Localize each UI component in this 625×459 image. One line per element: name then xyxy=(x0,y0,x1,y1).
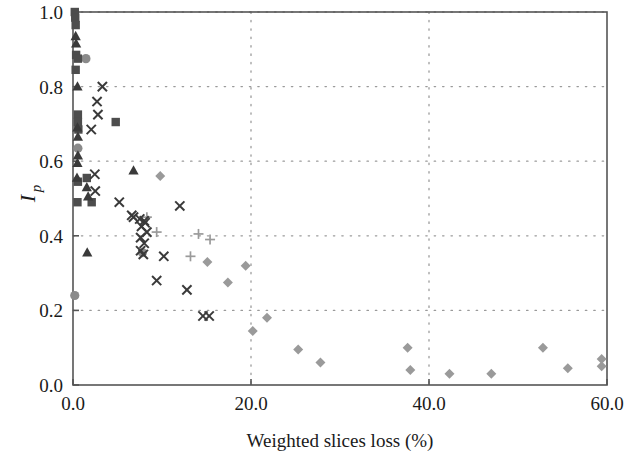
data-point-x xyxy=(91,186,100,195)
data-point-diamond xyxy=(262,313,272,323)
data-point-diamond xyxy=(315,358,325,368)
y-axis-title-base: I xyxy=(15,193,40,203)
data-point-x xyxy=(182,285,191,294)
data-point-triangle xyxy=(71,31,81,40)
data-point-x xyxy=(92,97,101,106)
series-triangle xyxy=(71,31,139,257)
data-point-plus xyxy=(193,229,203,239)
data-point-diamond xyxy=(405,365,415,375)
data-point-circle xyxy=(81,54,90,63)
data-point-plus xyxy=(205,235,215,245)
data-point-x xyxy=(90,170,99,179)
data-point-triangle xyxy=(128,165,138,174)
data-point-square xyxy=(71,13,79,21)
data-point-square xyxy=(74,110,82,118)
data-point-diamond xyxy=(202,257,212,267)
series-diamond xyxy=(155,171,606,379)
series-plus xyxy=(142,212,215,261)
data-points xyxy=(70,8,606,379)
data-point-x xyxy=(115,198,124,207)
y-axis-title-subscript: p xyxy=(28,184,44,193)
x-tick-label: 20.0 xyxy=(234,393,267,414)
data-point-square xyxy=(73,198,81,206)
chart-figure: 0.00.20.40.60.81.00.020.040.060.0Weighte… xyxy=(0,0,625,459)
data-point-diamond xyxy=(597,361,607,371)
data-point-diamond xyxy=(293,345,303,355)
data-point-diamond xyxy=(223,277,233,287)
data-point-circle xyxy=(70,291,79,300)
x-tick-label: 0.0 xyxy=(61,393,85,414)
data-point-diamond xyxy=(241,261,251,271)
x-axis-title: Weighted slices loss (%) xyxy=(247,430,434,452)
data-point-square xyxy=(112,118,120,126)
y-axis-title: Ip xyxy=(15,184,44,203)
data-point-plus xyxy=(185,251,195,261)
data-point-diamond xyxy=(403,343,413,353)
data-point-triangle xyxy=(82,182,92,191)
y-tick-label: 1.0 xyxy=(39,2,63,23)
gridlines xyxy=(73,12,607,385)
x-tick-label: 40.0 xyxy=(412,393,445,414)
y-tick-label: 0.4 xyxy=(39,226,63,247)
y-tick-label: 0.6 xyxy=(39,151,63,172)
axis-ticks xyxy=(73,12,607,385)
data-point-diamond xyxy=(563,363,573,373)
plot-frame xyxy=(73,12,607,385)
data-point-x xyxy=(87,125,96,134)
data-point-x xyxy=(152,276,161,285)
data-point-x xyxy=(93,110,102,119)
data-point-plus xyxy=(152,227,162,237)
y-tick-label: 0.0 xyxy=(39,375,63,396)
y-tick-label: 0.8 xyxy=(39,77,63,98)
series-circle xyxy=(70,54,147,300)
data-point-x xyxy=(159,252,168,261)
data-point-diamond xyxy=(248,326,258,336)
y-tick-label: 0.2 xyxy=(39,300,63,321)
data-point-x xyxy=(175,201,184,210)
data-point-triangle xyxy=(82,247,92,256)
data-point-diamond xyxy=(444,369,454,379)
data-point-square xyxy=(74,54,82,62)
plot-border xyxy=(73,12,607,385)
x-tick-label: 60.0 xyxy=(590,393,623,414)
scatter-plot: 0.00.20.40.60.81.00.020.040.060.0Weighte… xyxy=(0,0,625,459)
data-point-diamond xyxy=(155,171,165,181)
data-point-square xyxy=(71,66,79,74)
data-point-square xyxy=(71,21,79,29)
data-point-triangle xyxy=(73,150,83,159)
data-point-diamond xyxy=(538,343,548,353)
data-point-diamond xyxy=(486,369,496,379)
data-point-x xyxy=(205,311,214,320)
series-cross-x xyxy=(87,82,214,321)
